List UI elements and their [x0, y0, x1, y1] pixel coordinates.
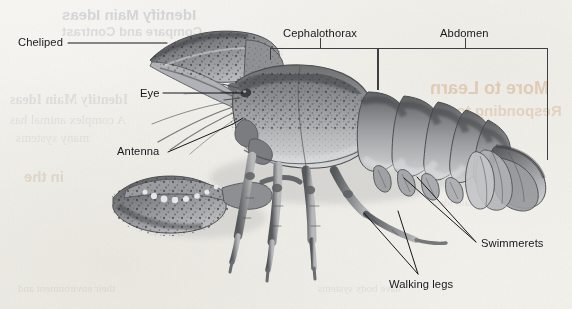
abdomen-bracket-right-drop	[547, 48, 548, 160]
abdomen-bracket-tick	[465, 38, 466, 48]
label-walking-legs: Walking legs	[389, 279, 453, 290]
cephalothorax-bracket-tick	[320, 38, 321, 48]
figure-canvas: Identify Main IdeasCompare and ContrastI…	[0, 0, 572, 309]
abdomen-bracket-top	[378, 48, 548, 49]
lobster-illustration	[0, 0, 572, 309]
label-eye: Eye	[140, 88, 160, 99]
label-cheliped: Cheliped	[18, 37, 63, 48]
label-antenna: Antenna	[117, 146, 159, 157]
tail-fan	[465, 146, 545, 211]
label-abdomen: Abdomen	[440, 28, 489, 39]
label-cephalothorax: Cephalothorax	[283, 28, 357, 39]
cephalothorax-bracket-top	[270, 48, 378, 49]
cephalothorax-bracket-left-drop	[270, 48, 271, 60]
abdomen-bracket-left-drop	[378, 48, 379, 90]
label-swimmerets: Swimmerets	[481, 238, 544, 249]
cephalothorax	[221, 60, 382, 172]
